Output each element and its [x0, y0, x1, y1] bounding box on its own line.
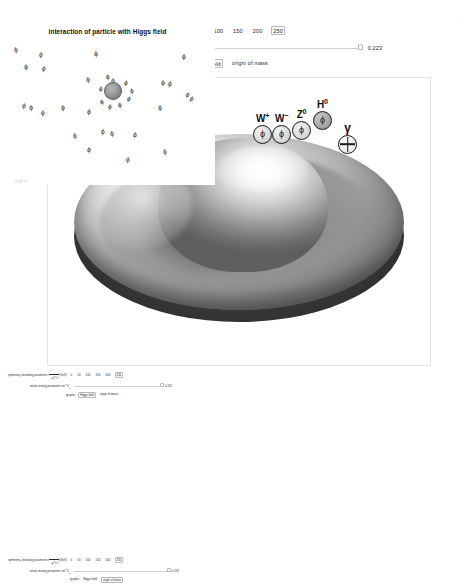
- right-graphic-setter-bar[interactable]: Higgs field origin of mass: [82, 577, 122, 583]
- left-radicand: −μ2/λ: [49, 374, 59, 380]
- right-graphic-option-higgs-field[interactable]: Higgs field: [82, 577, 97, 583]
- higgs-quantum-18: ϕ: [73, 132, 78, 139]
- left-symmetry-setter-bar[interactable]: 0 50 100 150 200 250: [70, 372, 123, 378]
- right-symmetry-setter-bar[interactable]: 0 50 100 150 200 250: [70, 557, 123, 563]
- higgs-quantum-23: ϕ: [126, 156, 131, 163]
- higgs-quantum-5: ϕ: [182, 53, 186, 60]
- clustered-higgs-quantum-4: ϕ: [107, 104, 112, 111]
- right-radicand-denominator: λ: [57, 561, 58, 565]
- higgs-quantum-0: ϕ: [14, 46, 19, 53]
- left-weak-mixing-text: weak–mixing parameter sin: [30, 384, 65, 388]
- right-weak-mixing-value: 0.223: [172, 569, 179, 573]
- right-setter-option-100[interactable]: 100: [85, 558, 91, 562]
- left-thumbnail-panel: symmetry–breaking parameter √ −μ2/λ (GeV…: [0, 372, 200, 557]
- left-weak-mixing-value: 0.223: [165, 384, 172, 388]
- boson-symbol: W: [256, 113, 265, 124]
- clustered-higgs-quantum-0: ϕ: [123, 80, 128, 87]
- higgs-quantum-15: ϕ: [158, 104, 162, 111]
- right-weak-mixing-row: weak–mixing parameter sin2 θW 0.223: [0, 569, 215, 573]
- scan-corner-artifact: ◌: [461, 14, 464, 20]
- left-setter-option-100[interactable]: 100: [85, 373, 91, 377]
- left-symmetry-breaking-label: symmetry–breaking parameter: [8, 373, 47, 377]
- setter-option-150[interactable]: 150: [232, 27, 245, 34]
- boson-marker-z-zero: Z0 ϕ: [292, 110, 311, 140]
- clustered-higgs-quantum-7: ϕ: [106, 74, 111, 81]
- setter-option-250[interactable]: 250: [271, 26, 286, 35]
- boson-label-higgs: H0: [317, 100, 328, 110]
- left-weak-mixing-row: weak–mixing parameter sin2 θW 0.223: [0, 384, 200, 388]
- higgs-quantum-6: ϕ: [85, 76, 90, 84]
- left-weak-mixing-slider[interactable]: [74, 385, 162, 387]
- left-graphic-option-higgs-field[interactable]: Higgs field: [78, 392, 95, 398]
- right-radicand: −μ2/λ: [49, 559, 59, 565]
- setter-option-200[interactable]: 200: [251, 27, 264, 34]
- right-setter-option-200[interactable]: 200: [105, 558, 111, 562]
- left-setter-option-250[interactable]: 250: [115, 372, 123, 378]
- left-setter-option-50[interactable]: 50: [77, 373, 82, 377]
- left-weak-mixing-slider-thumb[interactable]: [160, 383, 164, 387]
- graphic-option-origin-of-mass[interactable]: origin of mass: [230, 59, 269, 68]
- left-setter-option-0[interactable]: 0: [70, 373, 73, 377]
- phi-disc-z-zero: ϕ: [292, 121, 311, 140]
- higgs-quantum-13: ϕ: [61, 104, 66, 111]
- right-weak-mixing-text: weak–mixing parameter sin: [30, 569, 65, 573]
- potential-highlight: [216, 146, 308, 194]
- right-symmetry-breaking-formula: √ −μ2/λ: [47, 559, 59, 565]
- phi-disc-higgs: ϕ: [313, 111, 332, 130]
- boson-marker-higgs: H0 ϕ: [313, 100, 332, 130]
- boson-charge: 0: [324, 97, 328, 106]
- boson-charge: −: [284, 111, 288, 120]
- right-setter-option-150[interactable]: 150: [95, 558, 101, 562]
- clustered-higgs-quantum-2: ϕ: [126, 96, 132, 103]
- right-graphic-label: graphic: [70, 577, 79, 581]
- left-weak-mixing-subscript: W: [69, 386, 71, 388]
- phi-disc-w-minus: ϕ: [272, 125, 291, 144]
- boson-marker-w-plus: W+ ϕ: [253, 114, 272, 144]
- right-weak-mixing-subscript: W: [69, 571, 71, 573]
- left-control-panel: symmetry–breaking parameter √ −μ2/λ (GeV…: [0, 372, 200, 398]
- clustered-higgs-quantum-3: ϕ: [118, 102, 122, 109]
- boson-symbol: W: [275, 113, 284, 124]
- right-graphic-option-origin-of-mass[interactable]: origin of mass: [101, 577, 123, 583]
- higgs-quantum-4: ϕ: [94, 50, 99, 57]
- particle-interaction-graphic: interaction of particle with Higgs field…: [0, 28, 215, 185]
- right-weak-mixing-slider[interactable]: [74, 570, 169, 572]
- higgs-quantum-9: ϕ: [167, 80, 172, 88]
- higgs-quantum-24: ϕ: [163, 148, 168, 155]
- weak-mixing-value: 0.223: [368, 45, 383, 51]
- right-thumbnail-panel: symmetry–breaking parameter √ −μ2/λ (GeV…: [0, 557, 215, 587]
- left-setter-option-200[interactable]: 200: [105, 373, 111, 377]
- scan-margin-artifact: Ouf f·: [14, 178, 28, 184]
- left-symmetry-breaking-units: (GeV): [59, 373, 67, 377]
- right-setter-option-0[interactable]: 0: [70, 558, 73, 562]
- right-weak-mixing-slider-thumb[interactable]: [167, 568, 171, 572]
- right-setter-option-250[interactable]: 250: [115, 557, 123, 563]
- right-weak-mixing-label: weak–mixing parameter sin2 θW: [30, 569, 71, 573]
- right-symmetry-breaking-units: (GeV): [59, 558, 67, 562]
- higgs-quantum-3: ϕ: [41, 65, 46, 73]
- left-setter-option-150[interactable]: 150: [95, 373, 101, 377]
- boson-charge: 0: [303, 107, 307, 116]
- phi-disc-w-plus: ϕ: [253, 125, 272, 144]
- phi-disc-photon: [338, 135, 357, 154]
- left-graphic-label: graphic: [66, 393, 75, 397]
- left-graphic-setter-bar[interactable]: Higgs field origin of mass: [78, 392, 118, 398]
- left-graphic-row: graphic Higgs field origin of mass: [0, 392, 200, 398]
- higgs-quantum-20: ϕ: [109, 130, 114, 138]
- higgs-quantum-10: ϕ: [22, 102, 27, 109]
- clustered-higgs-quantum-6: ϕ: [99, 86, 103, 93]
- right-control-panel: symmetry–breaking parameter √ −μ2/λ (GeV…: [0, 557, 215, 583]
- right-symmetry-breaking-row: symmetry–breaking parameter √ −μ2/λ (GeV…: [0, 557, 215, 565]
- higgs-quantum-19: ϕ: [101, 128, 106, 135]
- left-symmetry-breaking-row: symmetry–breaking parameter √ −μ2/λ (GeV…: [0, 372, 200, 380]
- weak-mixing-slider-thumb[interactable]: [358, 44, 363, 50]
- right-setter-option-50[interactable]: 50: [77, 558, 82, 562]
- higgs-quantum-22: ϕ: [87, 146, 92, 153]
- clustered-higgs-quantum-1: ϕ: [129, 88, 134, 95]
- right-symmetry-breaking-label: symmetry–breaking parameter: [8, 558, 47, 562]
- higgs-quantum-11: ϕ: [28, 104, 33, 112]
- boson-label-photon: γ: [344, 122, 350, 134]
- boson-charge: +: [265, 111, 269, 120]
- boson-marker-photon: γ: [338, 122, 357, 154]
- left-graphic-option-origin-of-mass[interactable]: origin of mass: [99, 392, 119, 398]
